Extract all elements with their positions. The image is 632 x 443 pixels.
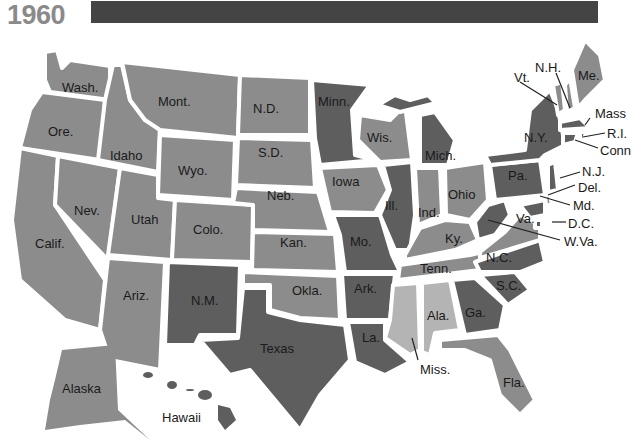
- label-tx: Texas: [260, 341, 294, 356]
- label-nv: Nev.: [74, 203, 100, 218]
- state-ct: [563, 133, 578, 145]
- label-ny: N.Y.: [524, 130, 548, 145]
- label-mo: Mo.: [350, 234, 372, 249]
- label-ar: Ark.: [354, 281, 377, 296]
- label-fl: Fla.: [503, 375, 525, 390]
- label-wa: Wash.: [62, 80, 98, 95]
- label-pa: Pa.: [508, 168, 528, 183]
- state-mi-up: [378, 95, 436, 112]
- label-ms: Miss.: [420, 362, 450, 377]
- label-vt: Vt.: [514, 70, 530, 85]
- label-ca: Calif.: [35, 236, 65, 251]
- label-md: Md.: [573, 198, 595, 213]
- label-wy: Wyo.: [178, 163, 208, 178]
- label-ga: Ga.: [465, 305, 486, 320]
- label-co: Colo.: [193, 222, 223, 237]
- label-ri: R.I.: [607, 126, 627, 141]
- state-ri: [580, 132, 586, 140]
- label-ky: Ky.: [445, 231, 463, 246]
- label-hi: Hawaii: [162, 410, 201, 425]
- label-ak: Alaska: [62, 381, 102, 396]
- label-sd: S.D.: [258, 145, 283, 160]
- label-ma: Mass: [595, 106, 627, 121]
- label-ne: Neb.: [267, 188, 294, 203]
- label-il: Ill.: [385, 198, 398, 213]
- label-nd: N.D.: [253, 101, 279, 116]
- label-nj: N.J.: [582, 164, 605, 179]
- label-nm: N.M.: [191, 293, 218, 308]
- label-mi: Mich.: [425, 148, 456, 163]
- state-dc: [535, 220, 542, 228]
- label-me: Me.: [578, 68, 600, 83]
- label-nc: N.C.: [486, 250, 512, 265]
- label-va: Va.: [516, 211, 535, 226]
- us-election-map: Wash. Ore. Calif. Idaho Nev. Mont. Wyo. …: [0, 0, 632, 443]
- state-nj: [548, 162, 558, 192]
- label-ok: Okla.: [292, 283, 322, 298]
- state-ia: [320, 165, 388, 213]
- label-nh: N.H.: [535, 60, 561, 75]
- label-dc: D.C.: [568, 216, 594, 231]
- label-wi: Wis.: [367, 130, 392, 145]
- label-ia: Iowa: [332, 174, 360, 189]
- label-la: La.: [362, 330, 380, 345]
- label-ks: Kan.: [280, 235, 307, 250]
- label-az: Ariz.: [123, 288, 149, 303]
- label-oh: Ohio: [448, 187, 475, 202]
- label-sc: S.C.: [496, 278, 521, 293]
- label-al: Ala.: [427, 308, 449, 323]
- label-mn: Minn.: [318, 94, 350, 109]
- label-wv: W.Va.: [564, 234, 598, 249]
- label-mt: Mont.: [158, 94, 191, 109]
- label-ut: Utah: [131, 212, 158, 227]
- label-or: Ore.: [48, 124, 73, 139]
- label-in: Ind.: [418, 205, 440, 220]
- state-ny: [485, 90, 565, 165]
- label-ct: Conn: [600, 143, 631, 158]
- label-id: Idaho: [110, 148, 143, 163]
- label-de: Del.: [578, 180, 601, 195]
- label-tn: Tenn.: [420, 261, 452, 276]
